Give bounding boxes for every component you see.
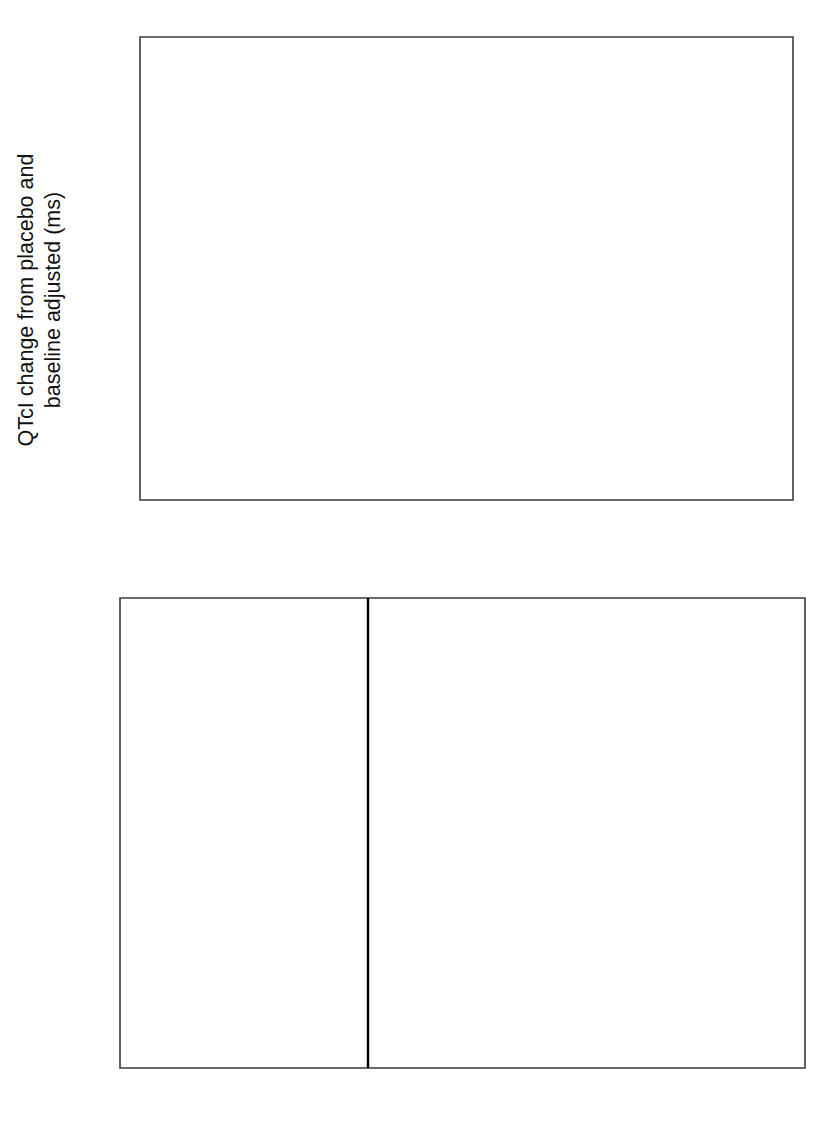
top-y-axis-label-line1: QTcI change from placebo and — [14, 154, 38, 447]
figure-container: QTcI change from placebo and baseline ad… — [0, 0, 835, 1138]
figure-background — [0, 0, 835, 1138]
top-y-axis-label-line2: baseline adjusted (ms) — [41, 192, 65, 408]
